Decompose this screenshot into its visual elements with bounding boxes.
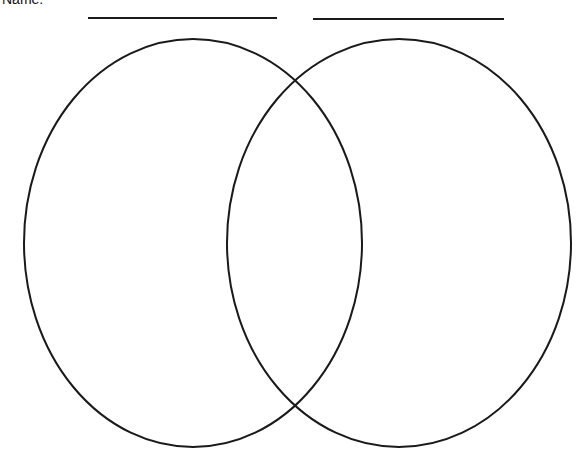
right-circle (227, 39, 571, 447)
venn-diagram (0, 0, 581, 459)
left-circle (24, 39, 362, 447)
